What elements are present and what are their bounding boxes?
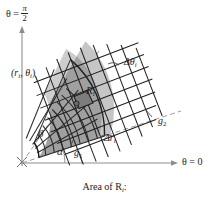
sample-point-marker (74, 101, 79, 106)
region-ri-sub: i (93, 89, 95, 98)
polar-area-figure: θ = π 2 θ = 0 (ri, θi) Δθi Δri Ri g1 g2 … (0, 0, 209, 199)
mesh-v8 (136, 48, 162, 116)
vertical-axis-label-lead: θ = (6, 8, 19, 19)
curve-g1-sub: 1 (79, 152, 82, 159)
angle-beta-label: β (38, 128, 43, 139)
horizontal-axis-arrowhead (171, 160, 178, 166)
figure-caption: Area of Ri: (0, 181, 209, 193)
curve-g2-sub: 2 (163, 120, 166, 127)
caption-tail: : (124, 181, 127, 192)
polar-diagram-svg (0, 0, 209, 199)
region-ri-text: R (86, 84, 93, 96)
vertical-axis-arrowhead (19, 26, 25, 33)
curve-g1-label: g1 (74, 148, 82, 160)
delta-theta-label: Δθi (124, 57, 137, 69)
curve-g1 (34, 143, 39, 158)
sample-point-label: (ri, θi) (11, 68, 35, 80)
region-ri-label: Ri (86, 85, 95, 98)
delta-theta-text: Δθ (124, 56, 135, 67)
horizontal-axis-label: θ = 0 (182, 157, 202, 167)
delta-r-text: Δr (104, 132, 114, 143)
point-label-close: ) (32, 67, 35, 78)
delta-r-sub: i (114, 137, 116, 144)
vertical-axis-label: θ = π 2 (6, 4, 28, 22)
curve-g2-label: g2 (158, 116, 166, 128)
point-label-mid: , θ (20, 67, 30, 78)
delta-theta-sub: i (135, 61, 137, 68)
caption-text: Area of R (82, 181, 121, 192)
delta-r-label: Δri (104, 133, 116, 145)
pi-over-two-fraction: π 2 (21, 4, 27, 22)
fraction-denominator: 2 (21, 14, 27, 23)
angle-alpha-label: α (57, 146, 63, 157)
